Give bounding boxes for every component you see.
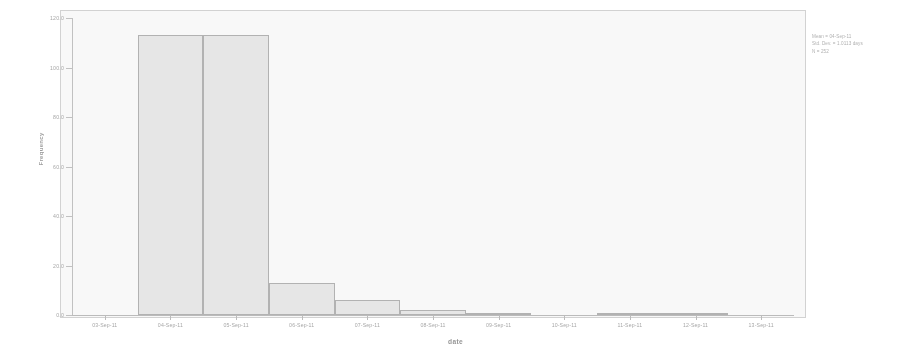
y-tick-label: 80.0 xyxy=(18,114,64,120)
x-tick-mark xyxy=(499,315,500,320)
x-tick-mark xyxy=(236,315,237,320)
annotation-n: N = 252 xyxy=(812,48,863,55)
y-tick-mark xyxy=(66,315,72,316)
annotation-mean: Mean = 04-Sep-11 xyxy=(812,33,863,40)
x-tick-mark xyxy=(302,315,303,320)
x-axis-title: date xyxy=(0,338,911,345)
y-tick-label: 120.0 xyxy=(18,15,64,21)
x-tick-label: 09-Sep-11 xyxy=(486,322,511,328)
x-tick-label: 04-Sep-11 xyxy=(158,322,183,328)
histogram-bar xyxy=(269,283,335,315)
x-tick-mark xyxy=(564,315,565,320)
x-tick-mark xyxy=(630,315,631,320)
x-tick-label: 05-Sep-11 xyxy=(223,322,248,328)
histogram-bar xyxy=(335,300,401,315)
x-tick-mark xyxy=(696,315,697,320)
x-tick-mark xyxy=(105,315,106,320)
histogram-bars xyxy=(72,18,794,315)
y-tick-label: 20.0 xyxy=(18,263,64,269)
histogram-figure: 0.020.040.060.080.0100.0120.0 Frequency … xyxy=(0,0,911,363)
x-tick-label: 11-Sep-11 xyxy=(618,322,643,328)
x-tick-mark xyxy=(761,315,762,320)
histogram-bar xyxy=(138,35,204,315)
y-tick-label: 0.0 xyxy=(18,312,64,318)
annotation-std-dev: Std. Dev. = 1.0113 days xyxy=(812,40,863,47)
x-tick-label: 08-Sep-11 xyxy=(420,322,445,328)
y-tick-label: 100.0 xyxy=(18,65,64,71)
x-tick-label: 13-Sep-11 xyxy=(749,322,774,328)
histogram-bar xyxy=(203,35,269,315)
statistics-annotation: Mean = 04-Sep-11 Std. Dev. = 1.0113 days… xyxy=(812,33,863,55)
x-tick-label: 10-Sep-11 xyxy=(552,322,577,328)
x-tick-label: 03-Sep-11 xyxy=(92,322,117,328)
x-tick-mark xyxy=(367,315,368,320)
x-tick-label: 06-Sep-11 xyxy=(289,322,314,328)
x-tick-mark xyxy=(433,315,434,320)
x-tick-mark xyxy=(170,315,171,320)
x-tick-label: 07-Sep-11 xyxy=(355,322,380,328)
x-tick-label: 12-Sep-11 xyxy=(683,322,708,328)
y-axis-title: Frequency xyxy=(38,132,44,165)
y-tick-label: 40.0 xyxy=(18,213,64,219)
